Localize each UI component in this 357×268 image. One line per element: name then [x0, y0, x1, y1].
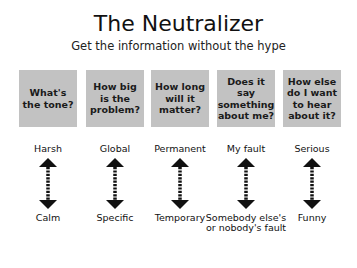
column-blame: Does it say something about me? My fault…	[217, 70, 275, 268]
question-text: How long will it matter?	[151, 81, 209, 116]
page-subtitle: Get the information without the hype	[0, 40, 357, 53]
column-scope: How big is the problem? Global Specific	[86, 70, 144, 268]
scale-top-label: Serious	[269, 143, 355, 154]
question-box: Does it say something about me?	[217, 70, 275, 127]
double-arrow-icon	[38, 158, 58, 209]
column-duration: How long will it matter? Permanent Tempo…	[151, 70, 209, 268]
page-title: The Neutralizer	[0, 12, 357, 36]
question-text: How big is the problem?	[86, 81, 144, 116]
scale-bottom-label: Funny	[269, 213, 355, 223]
question-text: How else do I want to hear about it?	[283, 76, 341, 122]
question-text: What's the tone?	[19, 87, 77, 110]
question-text: Does it say something about me?	[216, 76, 277, 122]
question-box: How big is the problem?	[86, 70, 144, 127]
question-box: What's the tone?	[19, 70, 77, 127]
double-arrow-icon	[302, 158, 322, 209]
column-delivery: How else do I want to hear about it? Ser…	[283, 70, 341, 268]
double-arrow-icon	[170, 158, 190, 209]
double-arrow-icon	[236, 158, 256, 209]
question-box: How else do I want to hear about it?	[283, 70, 341, 127]
question-box: How long will it matter?	[151, 70, 209, 127]
column-tone: What's the tone? Harsh Calm	[19, 70, 77, 268]
double-arrow-icon	[105, 158, 125, 209]
